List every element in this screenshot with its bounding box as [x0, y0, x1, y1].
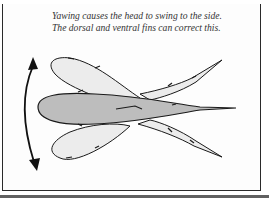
fish-yaw-diagram — [0, 0, 269, 201]
fish-body — [38, 93, 236, 124]
upper-tail-fin — [140, 60, 222, 100]
curved-double-arrow-icon — [25, 57, 40, 171]
lower-fin — [52, 124, 130, 159]
lower-tail-fin — [138, 120, 222, 157]
